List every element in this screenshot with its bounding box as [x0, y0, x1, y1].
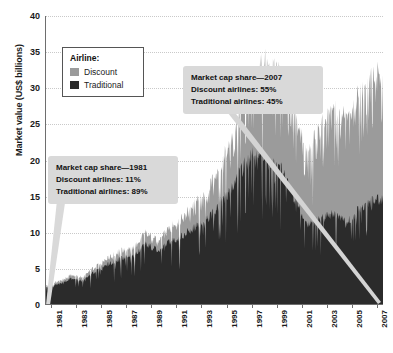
legend: Airline: Discount Traditional: [62, 47, 144, 97]
y-tick-label: 35: [14, 47, 40, 57]
y-tick-label: 30: [14, 83, 40, 93]
x-tick-label: 1983: [80, 310, 89, 328]
x-tick-label: 2001: [305, 310, 314, 328]
x-tick-label: 1989: [155, 310, 164, 328]
x-tick-label: 1999: [280, 310, 289, 328]
x-tick-mark: [352, 305, 353, 308]
y-axis-line: [45, 16, 46, 305]
x-tick-mark: [302, 305, 303, 308]
callout-2007-line3: Traditional airlines: 45%: [191, 96, 315, 108]
x-tick-mark: [51, 305, 52, 308]
x-tick-label: 2003: [330, 310, 339, 328]
x-tick-mark: [252, 305, 253, 308]
callout-2007: Market cap share—2007 Discount airlines:…: [183, 66, 323, 114]
x-tick-mark: [277, 305, 278, 308]
x-tick-label: 1995: [230, 310, 239, 328]
legend-item-discount: Discount: [70, 67, 137, 77]
x-tick-label: 1993: [205, 310, 214, 328]
x-tick-mark: [201, 305, 202, 308]
legend-label-traditional: Traditional: [84, 80, 123, 90]
callout-2007-line1: Market cap share—2007: [191, 72, 315, 84]
x-axis-line: [45, 304, 383, 305]
legend-item-traditional: Traditional: [70, 80, 137, 90]
callout-1981-line2: Discount airlines: 11%: [56, 174, 170, 186]
x-tick-label: 2005: [355, 310, 364, 328]
x-tick-mark: [101, 305, 102, 308]
x-tick-mark: [76, 305, 77, 308]
x-tick-label: 1991: [180, 310, 189, 328]
y-tick-label: 10: [14, 228, 40, 238]
x-tick-label: 1985: [105, 310, 114, 328]
x-tick-mark: [377, 305, 378, 308]
x-tick-mark: [176, 305, 177, 308]
y-tick-label: 20: [14, 156, 40, 166]
x-tick-mark: [327, 305, 328, 308]
chart-figure: Market value (US$ billions) 051015202530…: [0, 0, 393, 353]
x-tick-mark: [151, 305, 152, 308]
legend-label-discount: Discount: [84, 67, 117, 77]
x-tick-mark: [227, 305, 228, 308]
x-tick-label: 1997: [255, 310, 264, 328]
x-tick-label: 1987: [130, 310, 139, 328]
legend-swatch-traditional: [70, 81, 79, 89]
y-tick-label: 15: [14, 192, 40, 202]
y-tick-label: 0: [14, 300, 40, 310]
legend-swatch-discount: [70, 68, 79, 76]
y-tick-label: 5: [14, 264, 40, 274]
callout-1981: Market cap share—1981 Discount airlines:…: [48, 156, 178, 204]
legend-title: Airline:: [70, 53, 137, 63]
x-axis-tick-labels: 1981198319851987198919911993199519971999…: [45, 307, 383, 353]
x-tick-mark: [126, 305, 127, 308]
x-tick-label: 1981: [55, 310, 64, 328]
y-tick-label: 25: [14, 119, 40, 129]
callout-1981-line1: Market cap share—1981: [56, 162, 170, 174]
callout-1981-line3: Traditional airlines: 89%: [56, 186, 170, 198]
y-axis-tick-labels: 0510152025303540: [10, 16, 40, 305]
x-tick-label: 2007: [380, 310, 389, 328]
y-tick-label: 40: [14, 11, 40, 21]
callout-2007-line2: Discount airlines: 55%: [191, 84, 315, 96]
